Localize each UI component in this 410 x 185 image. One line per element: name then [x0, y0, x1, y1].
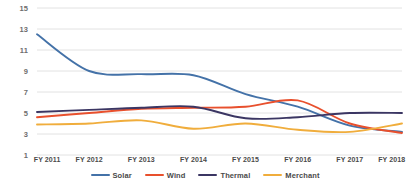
legend-item-merchant[interactable]: Merchant	[263, 171, 319, 180]
series-line-solar	[37, 34, 402, 132]
y-axis: 13579111315	[0, 8, 33, 155]
x-axis-tick-label: FY 2018	[378, 156, 405, 163]
legend-swatch-thermal	[198, 174, 217, 176]
x-axis-tick-label: FY 2016	[284, 156, 311, 163]
y-axis-tick-label: 9	[24, 67, 28, 76]
series-line-wind	[37, 100, 402, 133]
legend-swatch-solar	[91, 174, 110, 176]
y-axis-tick-label: 11	[20, 46, 28, 55]
legend-item-solar[interactable]: Solar	[91, 171, 132, 180]
x-axis-tick-label: FY 2017	[336, 156, 363, 163]
y-axis-tick-label: 3	[24, 130, 28, 139]
chart-legend: SolarWindThermalMerchant	[0, 169, 410, 181]
legend-swatch-merchant	[263, 174, 282, 176]
x-axis-tick-label: FY 2011	[34, 156, 61, 163]
line-chart: 13579111315 FY 2011FY 2012FY 2013FY 2014…	[0, 0, 410, 185]
plot-area	[37, 8, 402, 155]
legend-item-thermal[interactable]: Thermal	[198, 171, 250, 180]
y-axis-tick-label: 1	[24, 151, 28, 160]
y-axis-tick-label: 13	[19, 25, 28, 34]
x-axis-tick-label: FY 2014	[180, 156, 207, 163]
legend-item-wind[interactable]: Wind	[145, 171, 186, 180]
x-axis-tick-label: FY 2012	[76, 156, 103, 163]
x-axis-tick-label: FY 2015	[232, 156, 259, 163]
series-lines	[37, 8, 402, 155]
y-axis-tick-label: 7	[24, 88, 28, 97]
y-axis-tick-label: 5	[24, 109, 28, 118]
legend-label: Merchant	[285, 171, 319, 180]
legend-label: Thermal	[220, 171, 250, 180]
legend-label: Solar	[113, 171, 132, 180]
legend-label: Wind	[167, 171, 186, 180]
legend-swatch-wind	[145, 174, 164, 176]
x-axis-tick-label: FY 2013	[128, 156, 155, 163]
y-axis-tick-label: 15	[19, 4, 28, 13]
x-axis: FY 2011FY 2012FY 2013FY 2014FY 2015FY 20…	[37, 156, 402, 168]
